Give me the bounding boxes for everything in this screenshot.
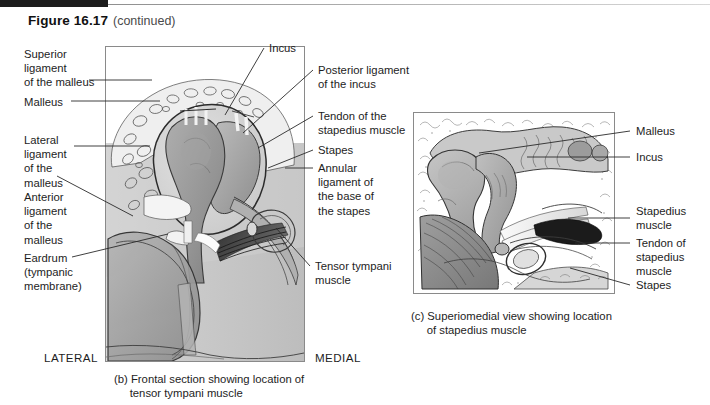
figure-number: Figure 16.17: [28, 13, 108, 28]
label-anterior-ligament-of-the-malleus: Anterior ligament of the malleus: [24, 190, 67, 247]
label-malleus-b: Malleus: [24, 95, 63, 109]
panel-c-caption: (c) Superiomedial view showing location …: [411, 309, 612, 338]
panel-b-illustration: [106, 47, 304, 361]
label-tensor-tympani-muscle: Tensor tympani muscle: [315, 259, 392, 287]
label-annular-ligament-of-the-base-of-the-stapes: Annular ligament of the base of the stap…: [318, 161, 374, 218]
label-stapes-c: Stapes: [636, 278, 671, 292]
header-horizontal-rule: [108, 4, 710, 5]
panel-c-illustration: [414, 113, 614, 293]
label-tendon-of-the-stapedius-muscle: Tendon of the stapedius muscle: [318, 109, 405, 137]
panel-b-caption: (b) Frontal section showing location of …: [114, 372, 304, 401]
label-posterior-ligament-of-the-incus: Posterior ligament of the incus: [318, 63, 409, 91]
panel-c-frame: [413, 112, 615, 294]
panel-b-frame: [105, 46, 305, 362]
label-tendon-of-stapedius-muscle: Tendon of stapedius muscle: [636, 236, 686, 279]
figure-continued-note: (continued): [113, 14, 176, 28]
label-stapedius-muscle: Stapedius muscle: [636, 204, 686, 232]
orientation-medial: MEDIAL: [315, 351, 361, 364]
label-eardrum-tympanic-membrane: Eardrum (tympanic membrane): [24, 251, 82, 294]
label-malleus-c: Malleus: [636, 124, 675, 138]
label-incus-b: Incus: [269, 41, 296, 55]
orientation-lateral: LATERAL: [44, 351, 98, 364]
label-stapes-b: Stapes: [318, 143, 353, 157]
label-superior-ligament-of-the-malleus: Superior ligament of the malleus: [24, 47, 94, 90]
label-lateral-ligament-of-the-malleus: Lateral ligament of the malleus: [24, 133, 67, 190]
header-black-tab: [0, 0, 108, 7]
label-incus-c: Incus: [636, 150, 663, 164]
